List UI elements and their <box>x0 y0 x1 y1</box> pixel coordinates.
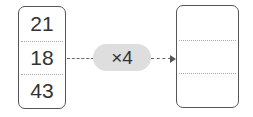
connector-line-right <box>151 58 171 59</box>
output-cell-1 <box>177 40 238 74</box>
input-array-box: 21 18 43 <box>18 6 66 109</box>
multiply-operation-pill: ×4 <box>93 44 151 71</box>
output-cell-0 <box>177 6 238 40</box>
output-array-box <box>176 5 239 108</box>
input-cell-0: 21 <box>19 7 65 41</box>
input-cell-1: 18 <box>19 41 65 75</box>
output-cell-2 <box>177 73 238 107</box>
input-cell-2: 43 <box>19 74 65 108</box>
connector-line-left <box>67 58 94 59</box>
operation-label: ×4 <box>111 47 133 69</box>
